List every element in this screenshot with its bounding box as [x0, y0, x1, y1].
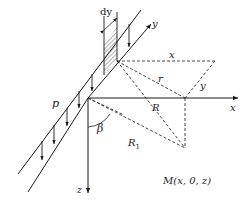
hatched-element: [104, 27, 117, 75]
load-outer-line: [18, 10, 141, 174]
y-distance-label: y: [199, 80, 206, 91]
r-line: [117, 61, 185, 98]
y-axis-label: y: [151, 18, 158, 29]
beta-ray: [88, 98, 124, 115]
R-line: [117, 61, 185, 148]
beta-label: β: [96, 122, 103, 135]
p-label: p: [52, 97, 59, 110]
dy-dimension-line: [104, 18, 117, 30]
x-axis-label: x: [230, 102, 236, 113]
M-point-label: M(x, 0, z): [162, 175, 211, 186]
line-load-diagram: dy p x z β x r y y R R1 M(x, 0, z): [0, 0, 247, 202]
R-label: R: [151, 102, 160, 113]
R1-label: R1: [127, 137, 140, 151]
r-label: r: [158, 73, 164, 84]
dy-label: dy: [100, 6, 112, 17]
z-axis-label: z: [76, 185, 82, 195]
load-inner-line: [28, 98, 88, 192]
x-distance-label: x: [169, 49, 175, 60]
